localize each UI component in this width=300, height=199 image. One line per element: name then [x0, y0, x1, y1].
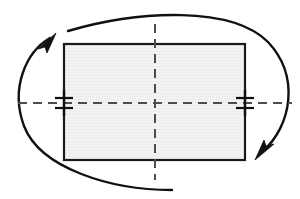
figure-container: Rotation of a rectangular plate about it… [0, 0, 300, 199]
diagram-canvas [0, 0, 300, 199]
